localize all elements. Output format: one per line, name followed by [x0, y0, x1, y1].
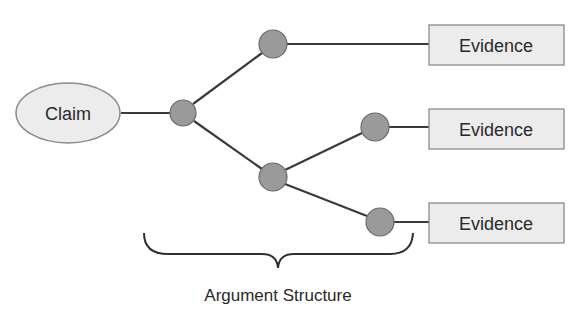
junction-node-c	[259, 163, 287, 191]
evidence-box-2: Evidence	[429, 109, 564, 149]
evidence-label-3: Evidence	[459, 214, 533, 234]
evidence-box-1: Evidence	[429, 25, 564, 65]
junction-node-d	[361, 113, 389, 141]
argument-diagram: Claim Evidence Evidence Evidence Argumen…	[0, 0, 586, 315]
edge-c-d	[285, 133, 362, 170]
junction-node-e	[366, 208, 394, 236]
junction-node-a	[170, 100, 196, 126]
claim-label: Claim	[45, 104, 91, 124]
evidence-label-1: Evidence	[459, 36, 533, 56]
edge-a-c	[194, 121, 262, 169]
edge-c-e	[285, 184, 367, 216]
brace-label: Argument Structure	[204, 286, 351, 305]
junction-node-b	[259, 30, 287, 58]
claim-node: Claim	[16, 83, 120, 143]
curly-brace	[144, 233, 413, 268]
evidence-box-3: Evidence	[429, 203, 564, 243]
edge-a-b	[193, 53, 262, 104]
evidence-label-2: Evidence	[459, 120, 533, 140]
